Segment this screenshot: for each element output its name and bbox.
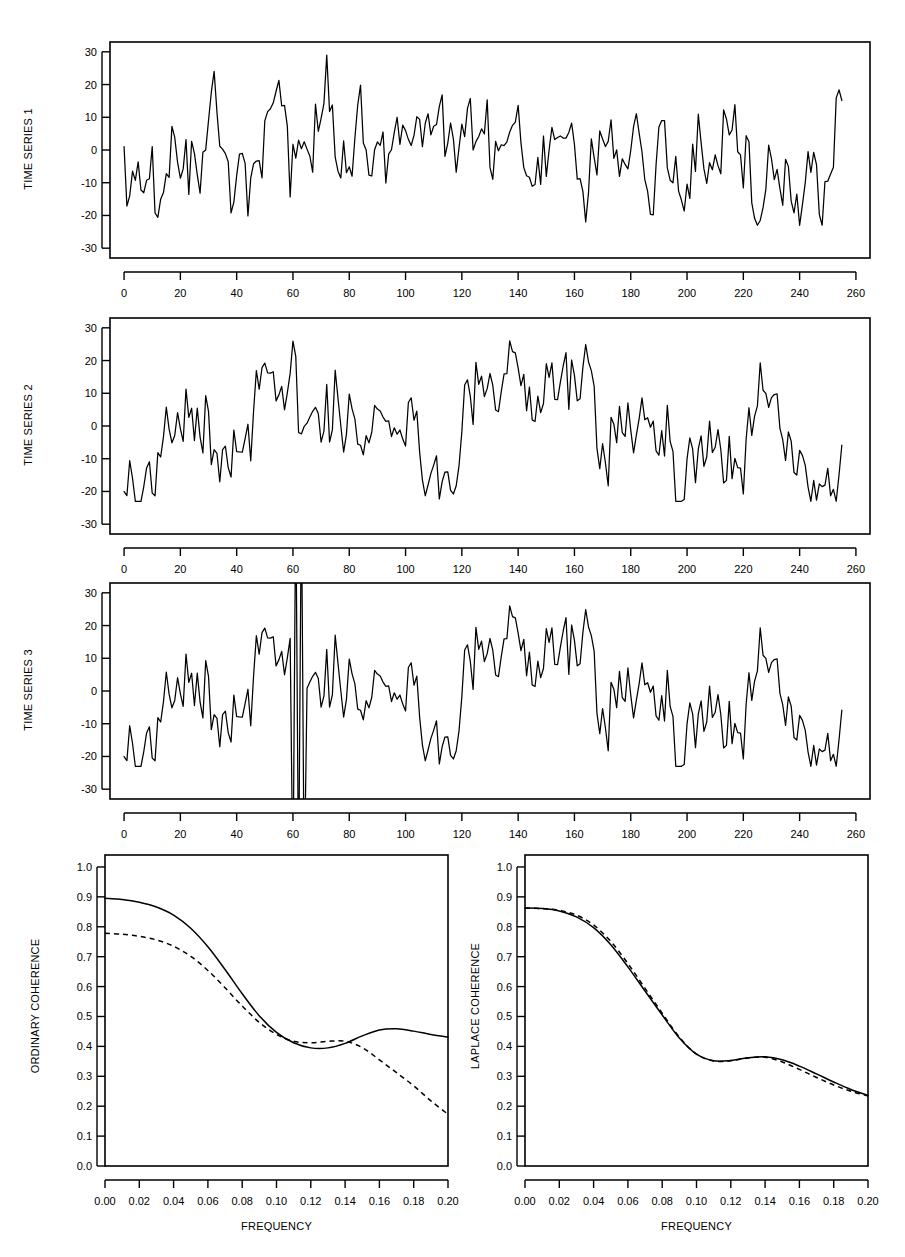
y-tick-label: 0 xyxy=(91,420,97,432)
y-tick-label: 10 xyxy=(85,652,97,664)
y-tick-label: -20 xyxy=(81,750,97,762)
y-tick-label: 0.8 xyxy=(77,921,92,933)
y-tick-label: 20 xyxy=(85,620,97,632)
x-tick-label: 0.02 xyxy=(549,1195,570,1207)
x-tick-label: 160 xyxy=(565,828,583,840)
coherence-curve-solid xyxy=(525,908,868,1095)
y-tick-label: -10 xyxy=(81,177,97,189)
panel-5-plot: 1.00.90.80.70.60.50.40.30.20.10.00.000.0… xyxy=(420,840,905,1257)
x-tick-label: 0.12 xyxy=(720,1195,741,1207)
panel-time-series-3: TIME SERIES 3 3020100-10-20-300204060801… xyxy=(0,541,905,851)
panel-4-ylabel: ORDINARY COHERENCE xyxy=(29,926,41,1086)
y-tick-label: 30 xyxy=(85,46,97,58)
coherence-curve-dashed xyxy=(525,908,868,1096)
panel-1-ylabel: TIME SERIES 1 xyxy=(22,94,34,204)
x-tick-label: 0.16 xyxy=(789,1195,810,1207)
y-tick-label: 0.2 xyxy=(77,1100,92,1112)
x-tick-label: 200 xyxy=(678,828,696,840)
panel-2-plot: 3020100-10-20-30020406080100120140160180… xyxy=(0,276,905,586)
y-tick-label: -10 xyxy=(81,718,97,730)
y-tick-label: 0.6 xyxy=(497,981,512,993)
y-tick-label: 0.9 xyxy=(77,891,92,903)
y-tick-label: 30 xyxy=(85,587,97,599)
y-tick-label: 0.0 xyxy=(497,1160,512,1172)
y-tick-label: 0.4 xyxy=(497,1040,512,1052)
x-tick-label: 0.10 xyxy=(686,1195,707,1207)
x-tick-label: 0.20 xyxy=(857,1195,878,1207)
x-tick-label: 100 xyxy=(396,828,414,840)
y-tick-label: 0.9 xyxy=(497,891,512,903)
y-tick-label: 0.8 xyxy=(497,921,512,933)
panel-3-ylabel: TIME SERIES 3 xyxy=(22,635,34,745)
series-line xyxy=(124,55,842,225)
y-tick-label: 1.0 xyxy=(77,861,92,873)
x-tick-label: 0.14 xyxy=(754,1195,775,1207)
panel-time-series-1: TIME SERIES 1 3020100-10-20-300204060801… xyxy=(0,0,905,310)
panel-4-xlabel: FREQUENCY xyxy=(105,1220,448,1232)
x-tick-label: 0.02 xyxy=(129,1195,150,1207)
y-tick-label: 30 xyxy=(85,322,97,334)
y-tick-label: -10 xyxy=(81,453,97,465)
panel-1-plot: 3020100-10-20-30020406080100120140160180… xyxy=(0,0,905,310)
x-tick-label: 220 xyxy=(734,828,752,840)
y-tick-label: 20 xyxy=(85,79,97,91)
x-tick-label: 80 xyxy=(343,828,355,840)
x-tick-label: 20 xyxy=(174,828,186,840)
x-tick-label: 140 xyxy=(509,828,527,840)
x-tick-label: 0.18 xyxy=(823,1195,844,1207)
x-tick-label: 0.10 xyxy=(266,1195,287,1207)
x-tick-label: 0.16 xyxy=(369,1195,390,1207)
x-tick-label: 0.08 xyxy=(651,1195,672,1207)
panel-2-ylabel: TIME SERIES 2 xyxy=(22,370,34,480)
panel-5-xlabel: FREQUENCY xyxy=(525,1220,868,1232)
x-tick-label: 0.00 xyxy=(94,1195,115,1207)
x-tick-label: 0 xyxy=(121,828,127,840)
panel-ordinary-coherence: ORDINARY COHERENCE 1.00.90.80.70.60.50.4… xyxy=(0,840,470,1257)
panel-4-plot: 1.00.90.80.70.60.50.40.30.20.10.00.000.0… xyxy=(0,840,470,1257)
x-tick-label: 0.04 xyxy=(163,1195,184,1207)
x-tick-label: 0.00 xyxy=(514,1195,535,1207)
y-tick-label: 0.1 xyxy=(497,1130,512,1142)
x-tick-label: 0.12 xyxy=(300,1195,321,1207)
y-tick-label: 0.7 xyxy=(77,951,92,963)
y-tick-label: 0.6 xyxy=(77,981,92,993)
y-tick-label: -20 xyxy=(81,485,97,497)
series-line xyxy=(124,341,842,501)
y-tick-label: 1.0 xyxy=(497,861,512,873)
x-tick-label: 0.14 xyxy=(334,1195,355,1207)
y-tick-label: 0.2 xyxy=(497,1100,512,1112)
y-tick-label: 0.5 xyxy=(497,1010,512,1022)
x-tick-label: 120 xyxy=(453,828,471,840)
panel-3-plot: 3020100-10-20-30020406080100120140160180… xyxy=(0,541,905,851)
y-tick-label: -20 xyxy=(81,209,97,221)
y-tick-label: 0.7 xyxy=(497,951,512,963)
y-tick-label: 20 xyxy=(85,355,97,367)
y-tick-label: 10 xyxy=(85,387,97,399)
y-tick-label: 0 xyxy=(91,144,97,156)
x-tick-label: 40 xyxy=(231,828,243,840)
y-tick-label: -30 xyxy=(81,242,97,254)
x-tick-label: 0.04 xyxy=(583,1195,604,1207)
panel-5-ylabel: LAPLACE COHERENCE xyxy=(469,926,481,1086)
y-tick-label: 10 xyxy=(85,111,97,123)
panel-laplace-coherence: LAPLACE COHERENCE 1.00.90.80.70.60.50.40… xyxy=(420,840,905,1257)
panel-time-series-2: TIME SERIES 2 3020100-10-20-300204060801… xyxy=(0,276,905,586)
y-tick-label: 0.3 xyxy=(497,1070,512,1082)
y-tick-label: -30 xyxy=(81,518,97,530)
y-tick-label: -30 xyxy=(81,783,97,795)
x-tick-label: 0.06 xyxy=(197,1195,218,1207)
y-tick-label: 0 xyxy=(91,685,97,697)
figure-root: TIME SERIES 1 3020100-10-20-300204060801… xyxy=(0,0,905,1257)
coherence-curve-solid xyxy=(105,898,448,1048)
x-tick-label: 0.06 xyxy=(617,1195,638,1207)
y-tick-label: 0.0 xyxy=(77,1160,92,1172)
y-tick-label: 0.3 xyxy=(77,1070,92,1082)
y-tick-label: 0.5 xyxy=(77,1010,92,1022)
x-tick-label: 260 xyxy=(847,828,865,840)
coherence-curve-dashed xyxy=(105,933,448,1114)
y-tick-label: 0.4 xyxy=(77,1040,92,1052)
x-tick-label: 240 xyxy=(790,828,808,840)
x-tick-label: 60 xyxy=(287,828,299,840)
y-tick-label: 0.1 xyxy=(77,1130,92,1142)
x-tick-label: 180 xyxy=(622,828,640,840)
